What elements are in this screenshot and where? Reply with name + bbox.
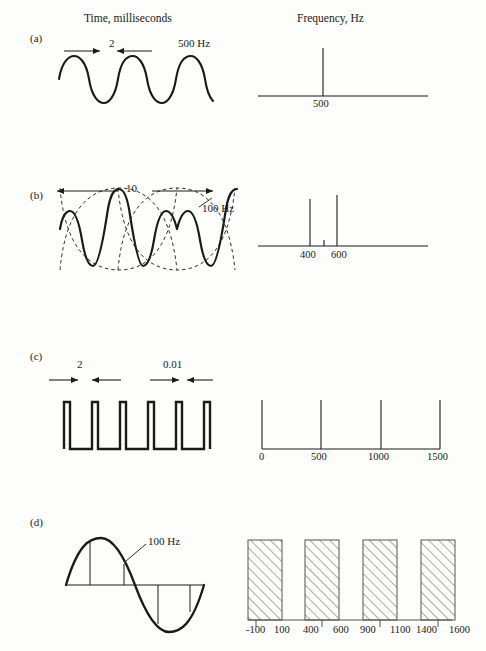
panel-c-tick-label-0: 0 — [259, 452, 264, 463]
panel-b-beat-waveform — [60, 189, 237, 266]
panel-a-period-arrows — [64, 48, 152, 54]
panel-a-tick-label-500: 500 — [313, 99, 329, 110]
panel-c-tick-label-1500: 1500 — [427, 452, 448, 463]
panel-a-graphics — [0, 30, 486, 150]
panel-d-band-0 — [248, 540, 282, 627]
panel-d-band-1500 — [421, 540, 455, 627]
column-header-time: Time, milliseconds — [84, 12, 172, 24]
panel-d-band-1500-to-label: 1600 — [449, 625, 470, 636]
panel-d-band-1000 — [363, 540, 397, 627]
panel-b-leader-line — [199, 198, 212, 207]
panel-d-band-0-from-label: -100 — [246, 625, 265, 636]
panel-d-band-500-from-label: 400 — [303, 625, 319, 636]
panel-d-band-500-to-label: 600 — [333, 625, 349, 636]
panel-b-envelope-lower — [60, 188, 177, 270]
panel-c-tick-label-500: 500 — [311, 452, 327, 463]
figure-canvas: Time, milliseconds Frequency, Hz (a) 2 5… — [0, 0, 486, 651]
panel-b-tick-label-600: 600 — [331, 250, 347, 261]
panel-d-band-1500-from-label: 1400 — [416, 625, 437, 636]
panel-d-graphics — [0, 528, 486, 651]
panel-c-graphics — [0, 352, 486, 472]
panel-b-envelope-upper — [60, 188, 177, 270]
column-header-frequency: Frequency, Hz — [297, 12, 364, 24]
panel-letter-d: (d) — [30, 516, 43, 528]
panel-c-pulse-train — [64, 402, 210, 449]
panel-b-period-arrows — [57, 188, 213, 194]
panel-c-tick-label-1000: 1000 — [368, 452, 389, 463]
panel-d-band-1000-to-label: 1100 — [390, 625, 411, 636]
panel-c-width-arrows — [150, 377, 213, 383]
panel-c-period-arrows — [49, 377, 121, 383]
panel-d-band-500 — [305, 540, 339, 627]
panel-b-graphics — [0, 178, 486, 318]
panel-a-sine-wave — [59, 56, 213, 103]
panel-d-band-0-to-label: 100 — [274, 625, 290, 636]
panel-d-leader-line — [126, 544, 146, 561]
panel-b-tick-label-400: 400 — [300, 250, 316, 261]
panel-d-band-1000-from-label: 900 — [360, 625, 376, 636]
